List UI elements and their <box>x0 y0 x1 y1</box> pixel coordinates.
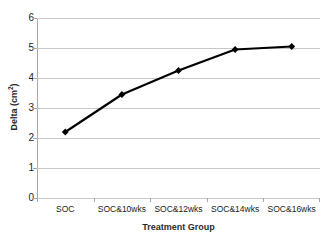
x-tick-mark <box>94 198 95 202</box>
y-tick-label: 3 <box>6 103 34 113</box>
x-tick-mark <box>263 198 264 202</box>
x-tick-label: SOC&12wks <box>150 203 207 217</box>
x-tick-mark <box>207 198 208 202</box>
y-tick-label: 6 <box>6 13 34 23</box>
series-line <box>65 47 291 133</box>
series-markers <box>62 43 295 135</box>
x-axis-title: Treatment Group <box>37 221 320 233</box>
data-point-marker <box>288 43 295 50</box>
x-tick-mark <box>319 198 320 202</box>
y-tick-label: 2 <box>6 133 34 143</box>
y-tick-label: 1 <box>6 163 34 173</box>
y-tick-label: 0 <box>6 193 34 203</box>
plot-area <box>37 18 320 198</box>
y-axis-tick-labels: 6543210 <box>0 0 34 238</box>
x-tick-label: SOC&14wks <box>207 203 264 217</box>
data-point-marker <box>175 67 182 74</box>
y-tick-label: 4 <box>6 73 34 83</box>
x-tick-mark <box>150 198 151 202</box>
data-series <box>37 18 320 198</box>
x-tick-label: SOC&10wks <box>94 203 151 217</box>
data-point-marker <box>232 46 239 53</box>
x-tick-label: SOC <box>37 203 94 217</box>
gridline <box>37 198 320 199</box>
x-axis-tick-labels: SOCSOC&10wksSOC&12wksSOC&14wksSOC&16wks <box>37 203 320 217</box>
y-tick-label: 5 <box>6 43 34 53</box>
x-tick-label: SOC&16wks <box>263 203 320 217</box>
x-tick-mark <box>37 198 38 202</box>
line-chart: Delta (cm2) 6543210 SOCSOC&10wksSOC&12wk… <box>0 0 328 238</box>
